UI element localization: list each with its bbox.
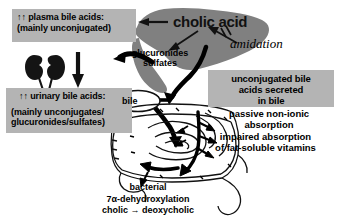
- kidneys-organ: [25, 55, 65, 90]
- urinary-line-2: (mainly unconjugates/: [6, 107, 132, 118]
- figure-canvas: ↑↑ plasma bile acids: (mainly unconjugat…: [0, 0, 337, 221]
- passive-line-1: passive non-ionic: [206, 108, 332, 119]
- secreted-line-1: unconjugated bile: [208, 73, 334, 84]
- urinary-bile-acids-box: ↑↑ urinary bile acids: (mainly unconjuga…: [6, 88, 132, 133]
- urinary-line-1: ↑↑ urinary bile acids:: [6, 91, 132, 102]
- arrow-down-to-urinary-box: [72, 52, 84, 88]
- plasma-line-1: ↑↑ plasma bile acids:: [12, 12, 136, 23]
- passive-absorption-caption: passive non-ionic absorption: [206, 108, 332, 131]
- impaired-line-2: of fat-soluble vitamins: [194, 142, 337, 153]
- bacterial-dehydroxylation-caption: bacterial 7α-dehydroxylation cholic → de…: [74, 182, 222, 217]
- bacterial-line-1: bacterial: [74, 182, 222, 194]
- plasma-bile-acids-box: ↑↑ plasma bile acids: (mainly unconjugat…: [12, 9, 136, 42]
- impaired-line-1: impaired absorption: [194, 131, 337, 142]
- arrow-bile-into-intestine: [149, 96, 182, 148]
- unconjugated-secreted-box: unconjugated bile acids secreted in bile: [208, 70, 334, 107]
- amidation-label: amidation: [230, 36, 283, 52]
- impaired-absorption-caption: impaired absorption of fat-soluble vitam…: [194, 131, 337, 154]
- plasma-line-2: (mainly unconjugated): [12, 23, 136, 34]
- secreted-line-3: in bile: [208, 95, 334, 106]
- bacterial-line-2: 7α-dehydroxylation: [74, 194, 222, 206]
- cholic-acid-label: cholic acid: [173, 13, 247, 30]
- bile-label: bile: [122, 96, 138, 106]
- arrow-left-to-plasma-box: [138, 18, 168, 26]
- urinary-line-3: glucuronides/sulfates): [6, 117, 132, 128]
- bacterial-line-3: cholic → deoxycholic: [74, 205, 222, 217]
- glucuronides-sulfates-label: glucuronides sulfates: [129, 49, 191, 69]
- passive-line-2: absorption: [206, 119, 332, 130]
- secreted-line-2: acids secreted: [208, 84, 334, 95]
- sulfates-label: sulfates: [129, 59, 191, 69]
